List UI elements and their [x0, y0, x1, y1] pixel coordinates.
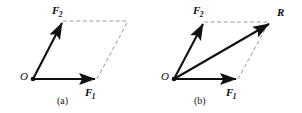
- figure-canvas: [0, 0, 302, 113]
- panel-b-label-r: R: [277, 7, 284, 18]
- panel-b-label-f1: F1: [226, 87, 237, 98]
- panel-a-caption: (a): [57, 96, 68, 106]
- panel-a-graphics: [31, 21, 128, 81]
- panel-a-origin-label: O: [20, 71, 28, 82]
- panel-a-vector-f2: [33, 23, 62, 79]
- panel-b-label-f2-subscript: 2: [200, 10, 204, 19]
- panel-a-dashed-right: [97, 21, 128, 79]
- panel-b-label-f1-subscript: 1: [233, 92, 237, 101]
- panel-b-caption: (b): [194, 96, 206, 106]
- panel-b-origin-point: [172, 77, 177, 82]
- vector-parallelogram-figure: O F2 F1 (a) O F2 F1 R (b): [0, 0, 302, 113]
- panel-a-label-f1: F1: [85, 87, 96, 98]
- panel-a-label-f2-subscript: 2: [59, 10, 63, 19]
- panel-b-origin-label: O: [161, 71, 169, 82]
- panel-b-graphics: [172, 22, 269, 81]
- panel-b-dashed-right: [238, 22, 269, 79]
- panel-a-origin-point: [31, 77, 36, 82]
- panel-a-label-f2: F2: [52, 5, 63, 16]
- panel-b-label-f2: F2: [193, 5, 204, 16]
- panel-b-label-r-base: R: [277, 6, 284, 18]
- panel-a-label-f1-subscript: 1: [92, 92, 96, 101]
